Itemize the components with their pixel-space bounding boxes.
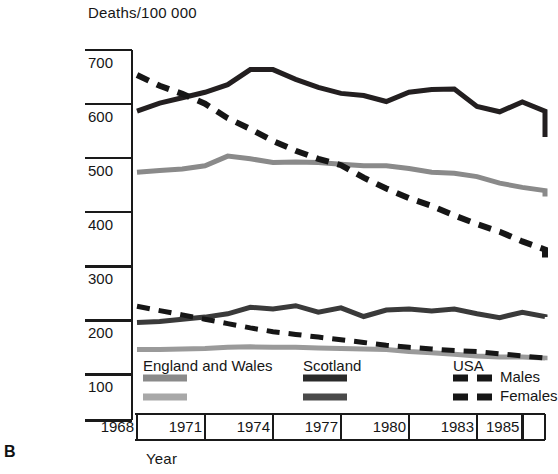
series-lines <box>137 70 545 362</box>
legend-column-header: England and Wales <box>143 357 273 374</box>
legend-row-label: Females <box>500 387 558 404</box>
legend-column-header: Scotland <box>303 357 361 374</box>
legend-column-header: USA <box>453 357 484 374</box>
legend-swatches <box>143 378 497 397</box>
series-line <box>137 306 545 323</box>
legend-row-label: Males <box>500 368 540 385</box>
